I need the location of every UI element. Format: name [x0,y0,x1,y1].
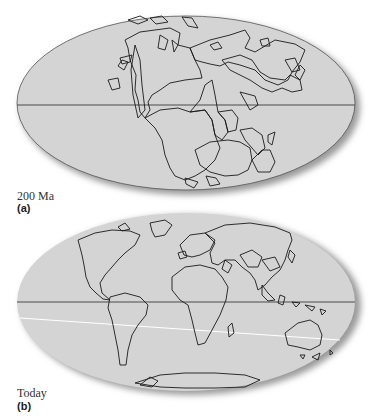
present-day-map [0,205,378,405]
time-label-today: Today [17,387,47,399]
map-panel-200ma [0,0,378,205]
panel-label-b: (b) [17,401,31,412]
time-label-200ma: 200 Ma [17,190,54,202]
map-panel-today [0,205,378,405]
pangaea-map [0,0,378,205]
ocean-ellipse [17,16,355,190]
